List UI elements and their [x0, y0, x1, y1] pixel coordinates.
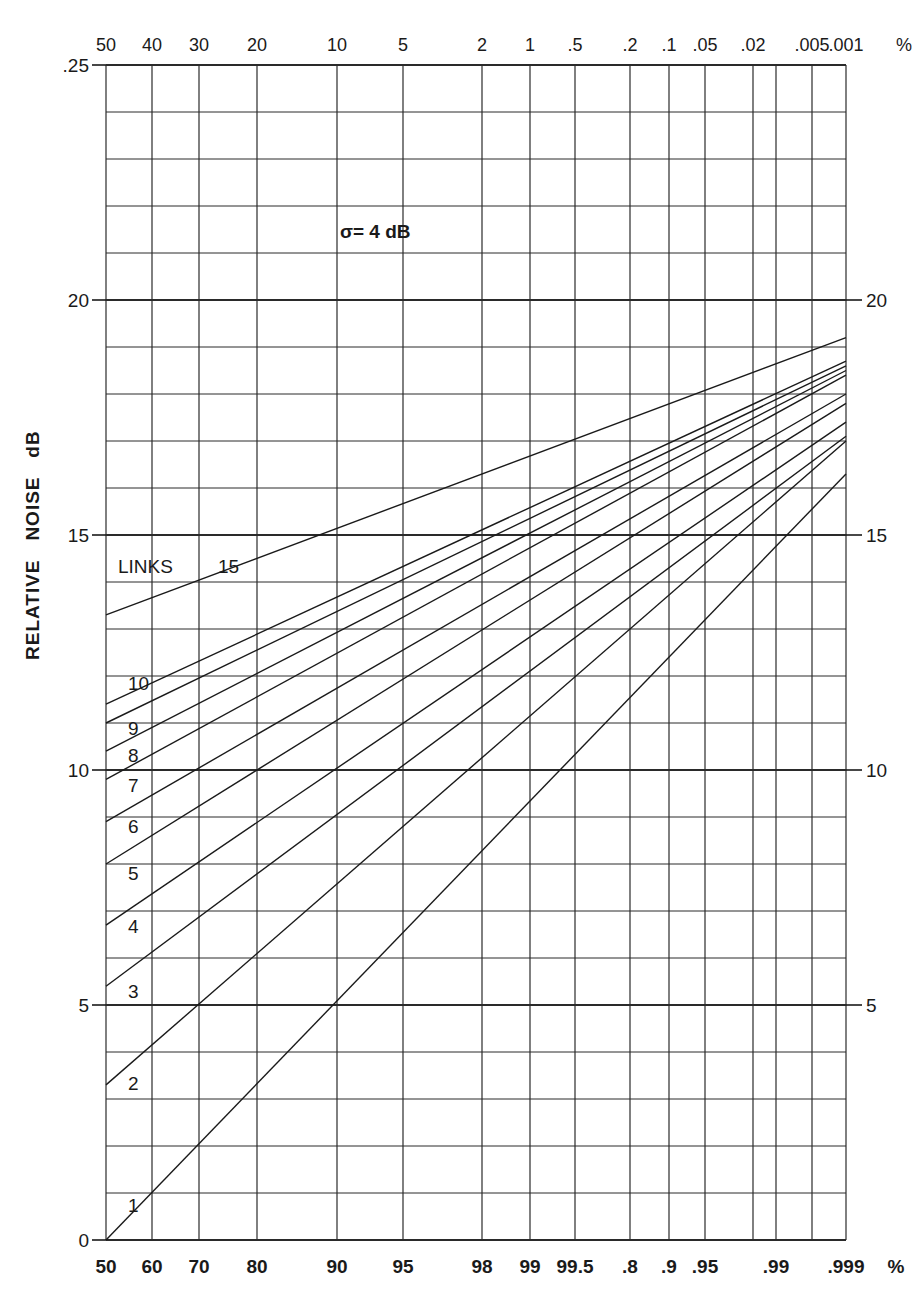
y-tick-label-left: 5 — [78, 995, 89, 1016]
series-label-4: 4 — [128, 916, 139, 937]
y-tick-label-left: 20 — [68, 290, 89, 311]
series-line-6 — [106, 394, 846, 822]
x-bottom-tick-label: 99 — [519, 1256, 540, 1277]
x-top-tick-label: .5 — [567, 35, 582, 55]
series-line-8 — [106, 371, 846, 752]
series-label-6: 6 — [128, 816, 139, 837]
x-top-tick-label: .2 — [622, 35, 637, 55]
y-tick-label-right: 5 — [866, 995, 877, 1016]
x-bottom-tick-label: 50 — [95, 1256, 116, 1277]
grid — [92, 65, 862, 1240]
series-line-9 — [106, 366, 846, 723]
x-top-tick-label: 10 — [327, 35, 347, 55]
series-line-4 — [106, 422, 846, 925]
series-line-5 — [106, 403, 846, 864]
series-label-8: 8 — [128, 745, 139, 766]
series-line-3 — [106, 436, 846, 986]
y-tick-label-left: 0 — [78, 1230, 89, 1251]
series-labels: 1510987654321LINKSσ= 4 dB — [118, 221, 411, 1216]
series-label-2: 2 — [128, 1073, 139, 1094]
legend-title-links: LINKS — [118, 556, 173, 577]
y-tick-label-right: 10 — [866, 760, 887, 781]
series-label-5: 5 — [128, 863, 139, 884]
y-tick-label-left: 15 — [68, 525, 89, 546]
x-bottom-tick-label: .95 — [692, 1256, 719, 1277]
series-lines — [106, 338, 846, 1240]
x-top-tick-label: .005 — [794, 35, 829, 55]
axis-labels: 05101520.255101520506070809095989999.5.8… — [63, 35, 912, 1277]
series-label-1: 1 — [128, 1195, 139, 1216]
x-bottom-tick-label: .9 — [661, 1256, 677, 1277]
y-tick-label-right: 15 — [866, 525, 887, 546]
x-top-unit: % — [896, 35, 912, 55]
x-bottom-tick-label: .999 — [828, 1256, 865, 1277]
series-line-10 — [106, 361, 846, 704]
series-label-9: 9 — [128, 718, 139, 739]
x-bottom-tick-label: 95 — [392, 1256, 414, 1277]
x-bottom-tick-label: 70 — [188, 1256, 209, 1277]
y-tick-label-right: 20 — [866, 290, 887, 311]
x-top-tick-label: .05 — [692, 35, 717, 55]
x-top-tick-label: 20 — [247, 35, 267, 55]
x-top-tick-label: .001 — [828, 35, 863, 55]
sigma-annotation: σ= 4 dB — [340, 221, 411, 242]
x-top-tick-label: 30 — [189, 35, 209, 55]
y-tick-label-left: 10 — [68, 760, 89, 781]
series-label-3: 3 — [128, 981, 139, 1002]
series-line-15 — [106, 338, 846, 615]
x-bottom-tick-label: 98 — [471, 1256, 492, 1277]
series-label-10: 10 — [128, 673, 149, 694]
x-bottom-tick-label: 80 — [246, 1256, 267, 1277]
x-bottom-tick-label: 99.5 — [557, 1256, 594, 1277]
series-label-7: 7 — [128, 775, 139, 796]
x-top-tick-label: 1 — [525, 35, 535, 55]
x-bottom-tick-label: .99 — [763, 1256, 789, 1277]
y-axis-title: RELATIVE NOISE dB — [22, 430, 44, 660]
noise-probability-chart: 05101520.255101520506070809095989999.5.8… — [0, 0, 914, 1298]
x-bottom-tick-label: 90 — [326, 1256, 347, 1277]
x-top-tick-label: 50 — [96, 35, 116, 55]
x-top-tick-label: 5 — [398, 35, 408, 55]
series-label-15: 15 — [218, 556, 239, 577]
x-top-tick-label: .1 — [661, 35, 676, 55]
x-bottom-tick-label: 60 — [141, 1256, 162, 1277]
series-line-7 — [106, 375, 846, 779]
x-bottom-unit: % — [888, 1256, 905, 1277]
series-line-2 — [106, 441, 846, 1085]
x-top-tick-label: .02 — [740, 35, 765, 55]
x-top-tick-label: 40 — [142, 35, 162, 55]
y-tick-label-left: .25 — [63, 55, 89, 76]
x-bottom-tick-label: .8 — [622, 1256, 638, 1277]
x-top-tick-label: 2 — [477, 35, 487, 55]
series-line-1 — [106, 474, 846, 1240]
